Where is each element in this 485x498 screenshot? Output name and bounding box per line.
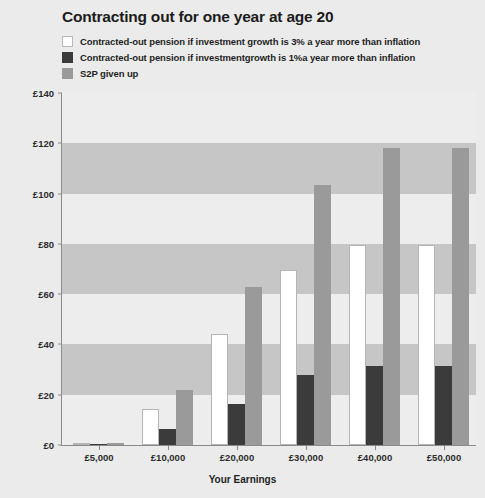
x-axis-tick-label: £10,000 (151, 452, 185, 463)
legend-label-grey: S2P given up (80, 68, 138, 79)
bar-grey (314, 185, 331, 445)
y-axis-tick-label: £60 (8, 289, 54, 300)
x-axis-tick-label: £30,000 (289, 452, 323, 463)
chart-legend: Contracted-out pension if investment gro… (62, 34, 420, 82)
legend-swatch-white-icon (62, 36, 73, 47)
bar-white (349, 245, 366, 445)
y-axis-tick-label: £20 (8, 389, 54, 400)
bar-grey (245, 287, 262, 445)
bar-dark (159, 429, 176, 445)
bar-group (280, 93, 331, 445)
bar-dark (435, 366, 452, 445)
x-axis-tick-label: £40,000 (358, 452, 392, 463)
x-axis-line (61, 445, 476, 446)
bar-dark (297, 375, 314, 445)
x-axis-tick-label: £5,000 (84, 452, 113, 463)
x-axis-tick-mark (168, 445, 169, 450)
x-axis-tick-mark (306, 445, 307, 450)
bar-group (211, 93, 262, 445)
legend-label-dark: Contracted-out pension if investmentgrow… (80, 52, 415, 63)
bar-white (280, 270, 297, 445)
x-axis-tick-mark (99, 445, 100, 450)
y-axis-tick-mark (58, 294, 62, 295)
y-axis-tick-label: £0 (8, 440, 54, 451)
plot-band (62, 143, 476, 193)
y-axis-tick-label: £80 (8, 238, 54, 249)
bar-dark (366, 366, 383, 445)
bar-dark (228, 404, 245, 445)
bar-group (73, 93, 124, 445)
bar-group (349, 93, 400, 445)
x-axis-tick-label: £50,000 (427, 452, 461, 463)
y-axis-tick-label: £120 (8, 138, 54, 149)
chart-page: Contracting out for one year at age 20 C… (0, 0, 485, 498)
y-axis-tick-mark (58, 143, 62, 144)
y-axis-tick-mark (58, 93, 62, 94)
chart-title: Contracting out for one year at age 20 (62, 8, 333, 26)
legend-item-white: Contracted-out pension if investment gro… (62, 34, 420, 49)
legend-swatch-dark-icon (62, 52, 73, 63)
bar-white (418, 245, 435, 445)
y-axis-tick-label: £100 (8, 188, 54, 199)
bar-group (418, 93, 469, 445)
y-axis-tick-mark (58, 243, 62, 244)
y-axis-tick-label: £140 (8, 88, 54, 99)
legend-label-white: Contracted-out pension if investment gro… (80, 36, 420, 47)
plot-band (62, 344, 476, 394)
legend-swatch-grey-icon (62, 68, 73, 79)
bar-grey (452, 148, 469, 445)
y-axis-tick-mark (58, 344, 62, 345)
x-axis-title: Your Earnings (0, 474, 485, 485)
y-axis-tick-mark (58, 394, 62, 395)
plot-band (62, 244, 476, 294)
bar-grey (176, 390, 193, 445)
x-axis-tick-label: £20,000 (220, 452, 254, 463)
y-axis-line (61, 93, 62, 446)
bar-grey (383, 148, 400, 445)
legend-item-dark: Contracted-out pension if investmentgrow… (62, 50, 420, 65)
bar-white (211, 334, 228, 445)
y-axis-tick-label: £40 (8, 339, 54, 350)
plot-area (62, 93, 476, 445)
y-axis-tick-mark (58, 445, 62, 446)
x-axis-tick-mark (237, 445, 238, 450)
y-axis-tick-mark (58, 193, 62, 194)
bar-white (142, 409, 159, 445)
x-axis-tick-mark (444, 445, 445, 450)
bar-group (142, 93, 193, 445)
x-axis-tick-mark (375, 445, 376, 450)
legend-item-grey: S2P given up (62, 66, 420, 81)
